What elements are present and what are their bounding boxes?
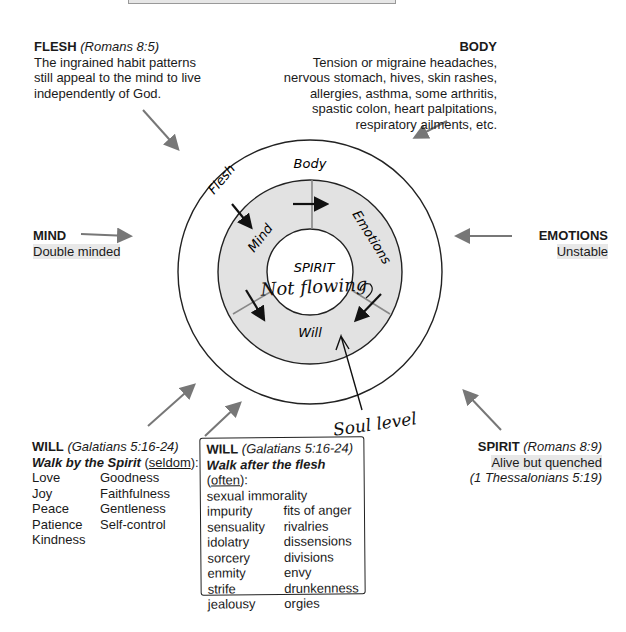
fruit-item: Kindness [32, 532, 100, 548]
flesh-work-item: jealousy [208, 596, 285, 612]
flesh-work-item: enmity [207, 565, 284, 581]
flesh-work-item: impurity [207, 503, 284, 519]
fruit-item: Faithfulness [100, 486, 184, 502]
flesh-title: FLESH [34, 39, 77, 54]
fruit-item: Goodness [100, 470, 184, 486]
label-spirit: SPIRIT [294, 260, 336, 275]
flesh-line: still appeal to the mind to live [34, 70, 201, 86]
will-spirit-title: WILL [32, 439, 64, 454]
flesh-work-item: strife [208, 580, 285, 596]
flesh-work-item: orgies [284, 595, 359, 611]
flesh-line: The ingrained habit patterns [34, 55, 201, 71]
body-line: spastic colon, heart palpitations, [237, 101, 497, 117]
body-title: BODY [237, 39, 497, 55]
body-line: nervous stomach, hives, skin rashes, [237, 70, 497, 86]
flesh-block: FLESH (Romans 8:5) The ingrained habit p… [34, 39, 201, 101]
walk-by-spirit: Walk by the Spirit [32, 455, 141, 470]
flesh-work-item: rivalries [284, 518, 359, 534]
will-flesh-title: WILL [206, 441, 238, 456]
fruit-item: Patience [32, 517, 100, 533]
flesh-work-item: envy [284, 564, 359, 580]
walk-after-flesh: Walk after the flesh [206, 456, 325, 472]
mind-block: MIND Double minded [33, 228, 120, 259]
fruit-item: Joy [32, 486, 100, 502]
will-flesh-ref: (Galatians 5:16-24) [242, 440, 353, 456]
will-spirit-ref: (Galatians 5:16-24) [67, 439, 178, 454]
flesh-line: independently of God. [34, 86, 201, 102]
body-line: Tension or migraine headaches, [237, 55, 497, 71]
flesh-work-item: divisions [284, 549, 359, 565]
spirit-block: SPIRIT (Romans 8:9) Alive but quenched (… [470, 439, 602, 486]
spirit-desc: Alive but quenched [491, 455, 602, 470]
emotions-desc: Unstable [557, 244, 608, 259]
colon: : [195, 455, 199, 470]
flesh-work-item: drunkenness [284, 580, 359, 596]
will-flesh-box: WILL (Galatians 5:16-24) Walk after the … [199, 436, 365, 595]
colon: : [244, 472, 248, 487]
label-body: Body [294, 156, 327, 171]
spirit-ref: (Romans 8:9) [523, 439, 602, 454]
emotions-block: EMOTIONS Unstable [539, 228, 608, 259]
flesh-ref: (Romans 8:5) [80, 39, 159, 54]
flesh-work-item: fits of anger [283, 502, 358, 518]
mind-desc: Double minded [33, 244, 120, 259]
flesh-work-item: sorcery [207, 549, 284, 565]
flesh-work-item: idolatry [207, 534, 284, 550]
fruit-item: Self-control [100, 517, 184, 533]
spirit-ref2: (1 Thessalonians 5:19) [470, 470, 602, 486]
label-will: Will [298, 325, 322, 340]
flesh-work-item: sensuality [207, 518, 284, 534]
mind-title: MIND [33, 228, 120, 244]
handwritten-soul-level: Soul level [332, 408, 418, 440]
body-line: respiratory ailments, etc. [237, 117, 497, 133]
spirit-title: SPIRIT [478, 439, 520, 454]
freq-often: often [211, 472, 240, 487]
body-block: BODY Tension or migraine headaches, nerv… [237, 39, 497, 132]
fruit-item: Love [32, 470, 100, 486]
freq-seldom: seldom [149, 455, 191, 470]
will-spirit-block: WILL (Galatians 5:16-24) Walk by the Spi… [32, 439, 199, 548]
body-line: allergies, asthma, some arthritis, [237, 86, 497, 102]
fruit-item: Peace [32, 501, 100, 517]
emotions-title: EMOTIONS [539, 228, 608, 244]
flesh-work-item: dissensions [284, 533, 359, 549]
flesh-work-item: sexual immorality [207, 487, 358, 504]
fruit-item: Gentleness [100, 501, 184, 517]
